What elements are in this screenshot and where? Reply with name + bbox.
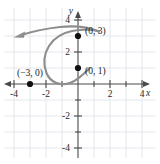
y-tick-label-4: 4 [65,15,70,25]
point-label-0-1: (0, 1) [85,66,106,77]
y-tick-label-neg2: -2 [62,111,70,121]
parabola-lower-branch [44,30,99,84]
x-tick-label-4: 4 [140,89,145,99]
x-axis-arrow-right-icon [143,81,150,87]
point-label-neg3-0: (−3, 0) [17,68,43,79]
coordinate-plane-chart: -4 -2 2 4 4 2 -2 -4 y x (0, 3) (0, 1) (−… [0,0,160,164]
y-tick-label-2: 2 [65,47,70,57]
point-label-0-3: (0, 3) [85,26,106,37]
y-tick-label-neg4: -4 [62,143,70,153]
point-marker-neg3-0 [27,81,33,87]
y-axis-label: y [68,6,74,16]
y-axis-arrow-up-icon [75,11,81,18]
point-marker-0-1 [75,65,81,71]
curve-arrow-upper-left-icon [14,32,26,38]
point-marker-0-3 [75,33,81,39]
graph-figure: -4 -2 2 4 4 2 -2 -4 y x (0, 3) (0, 1) (−… [0,0,160,164]
x-axis-arrow-left-icon [4,81,11,87]
x-axis-label: x [145,88,151,98]
x-tick-label-neg2: -2 [42,89,50,99]
x-tick-label-2: 2 [108,89,113,99]
x-tick-label-neg4: -4 [10,89,18,99]
